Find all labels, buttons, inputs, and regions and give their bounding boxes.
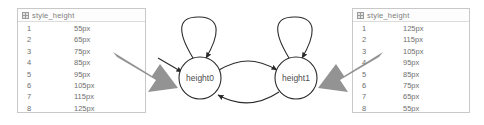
row-value: 75px xyxy=(403,80,419,91)
table-row: 2 115px xyxy=(353,34,469,45)
table-left-title: style_height xyxy=(32,11,74,21)
row-index: 4 xyxy=(353,57,399,68)
table-row: 3 105px xyxy=(353,46,469,57)
style-height-table-left: style_height 1 55px 2 65px 3 75px 4 85px… xyxy=(17,8,146,113)
row-index: 7 xyxy=(353,91,399,102)
row-value: 115px xyxy=(403,34,423,45)
node-height0[interactable] xyxy=(179,57,221,99)
row-value: 115px xyxy=(74,91,94,102)
edge-height0-to-height1 xyxy=(219,61,277,70)
row-value: 125px xyxy=(74,103,94,113)
row-index: 5 xyxy=(353,69,399,80)
table-row: 1 55px xyxy=(18,23,145,34)
node-height1[interactable] xyxy=(275,57,317,99)
table-row: 2 65px xyxy=(18,34,145,45)
table-row: 8 125px xyxy=(18,103,145,113)
screenshot-canvas: style_height 1 55px 2 65px 3 75px 4 85px… xyxy=(0,0,484,125)
grid-icon xyxy=(357,12,364,19)
table-row: 6 105px xyxy=(18,80,145,91)
table-right-header: style_height xyxy=(353,9,469,22)
row-value: 125px xyxy=(403,23,423,34)
row-index: 1 xyxy=(18,23,64,34)
row-value: 65px xyxy=(403,91,419,102)
node-height0-label: height0 xyxy=(186,73,214,83)
row-value: 105px xyxy=(403,46,423,57)
node-height1-label: height1 xyxy=(282,73,310,83)
table-row: 7 115px xyxy=(18,91,145,102)
table-left-body: 1 55px 2 65px 3 75px 4 85px 5 95px 6 105… xyxy=(18,22,145,113)
row-index: 4 xyxy=(18,57,64,68)
style-height-table-right: style_height 1 125px 2 115px 3 105px 4 9… xyxy=(352,8,470,113)
table-row: 8 55px xyxy=(353,103,469,113)
row-value: 55px xyxy=(403,103,419,113)
row-index: 8 xyxy=(18,103,64,113)
row-value: 75px xyxy=(74,46,90,57)
row-index: 7 xyxy=(18,91,64,102)
edge-height1-to-height0 xyxy=(218,92,279,103)
table-left-header: style_height xyxy=(18,9,145,22)
row-value: 105px xyxy=(74,80,94,91)
row-index: 3 xyxy=(18,46,64,57)
table-row: 5 85px xyxy=(353,69,469,80)
row-value: 65px xyxy=(74,34,90,45)
row-index: 2 xyxy=(18,34,64,45)
row-value: 55px xyxy=(74,23,90,34)
table-row: 7 65px xyxy=(353,91,469,102)
table-right-body: 1 125px 2 115px 3 105px 4 95px 5 85px 6 … xyxy=(353,22,469,113)
table-row: 4 95px xyxy=(353,57,469,68)
row-index: 6 xyxy=(18,80,64,91)
table-row: 3 75px xyxy=(18,46,145,57)
edge-self-loop-height0 xyxy=(182,17,216,58)
row-index: 3 xyxy=(353,46,399,57)
row-index: 5 xyxy=(18,69,64,80)
table-row: 6 75px xyxy=(353,80,469,91)
row-index: 8 xyxy=(353,103,399,113)
row-index: 6 xyxy=(353,80,399,91)
row-value: 85px xyxy=(74,57,90,68)
table-row: 1 125px xyxy=(353,23,469,34)
edge-self-loop-height1 xyxy=(278,17,312,58)
edge-incoming-height0 xyxy=(158,58,182,72)
table-row: 4 85px xyxy=(18,57,145,68)
row-index: 2 xyxy=(353,34,399,45)
row-index: 1 xyxy=(353,23,399,34)
row-value: 95px xyxy=(403,57,419,68)
grid-icon xyxy=(22,12,29,19)
row-value: 85px xyxy=(403,69,419,80)
table-right-title: style_height xyxy=(367,11,409,21)
table-row: 5 95px xyxy=(18,69,145,80)
row-value: 95px xyxy=(74,69,90,80)
